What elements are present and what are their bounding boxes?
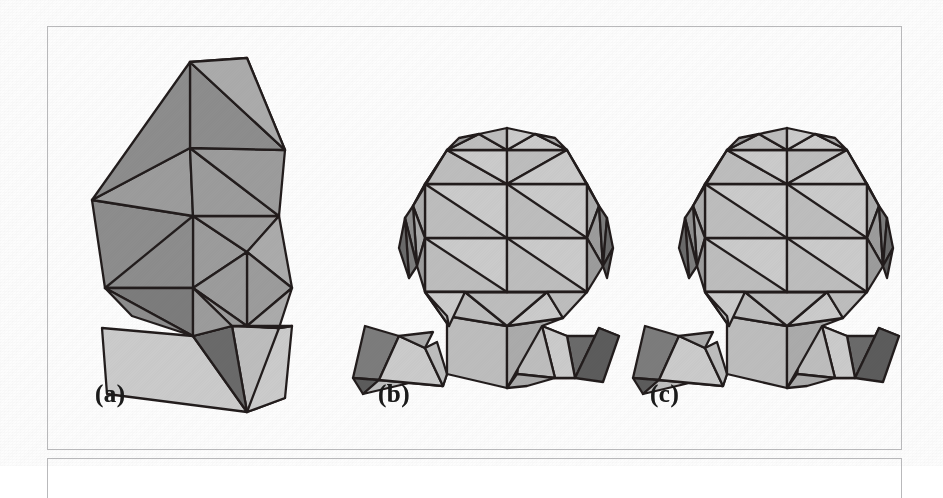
figure-caption-a: (a) <box>95 381 126 406</box>
figure-caption-c: (c) <box>650 381 679 406</box>
model-a-mesh <box>92 58 292 412</box>
model-c-mesh <box>633 128 899 394</box>
next-figure-frame <box>47 458 902 498</box>
figure-caption-b: (b) <box>378 381 410 406</box>
model-b-mesh <box>353 128 619 394</box>
figure-canvas: .e { stroke:#241f1f; stroke-width:2.3; s… <box>47 26 902 450</box>
